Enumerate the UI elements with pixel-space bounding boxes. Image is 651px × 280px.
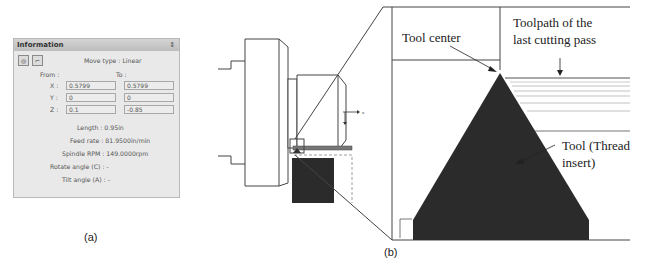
chuck-jaw-top [218, 61, 245, 69]
tool-center-arrowhead [488, 66, 497, 72]
tool-label-line2: insert) [562, 155, 595, 170]
z-axis-label: z [362, 110, 365, 115]
zoom-frame [383, 7, 392, 240]
corner-marker [400, 219, 412, 238]
tool-label-line1: Tool (Thread [562, 138, 631, 153]
toolpath-arrowhead [557, 70, 563, 76]
chuck-body [245, 39, 288, 186]
toolpath-label-line2: last cutting pass [513, 32, 596, 47]
tool-bar [293, 146, 352, 150]
toolpath-label-line1: Toolpath of the [513, 15, 592, 30]
tool-holder [292, 158, 334, 203]
workpiece [297, 75, 346, 148]
tool-center-arrow [450, 46, 494, 70]
chuck-jaw-bottom [218, 156, 245, 164]
lathe-diagram: z Tool center Toolpath of the last cutti… [0, 0, 651, 280]
caption-b: (b) [384, 246, 397, 258]
tool-center-label: Tool center [402, 30, 461, 45]
z-axis-arrowhead [357, 110, 360, 114]
